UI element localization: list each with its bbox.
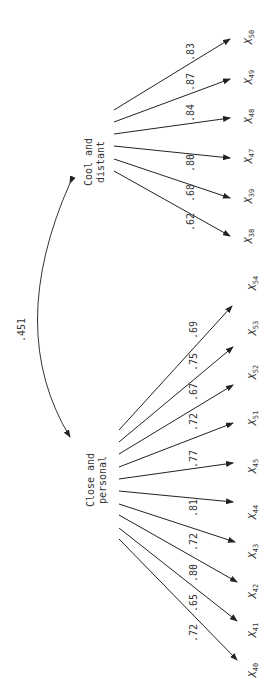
svg-text:.68: .68 bbox=[185, 184, 196, 202]
svg-text:X43: X43 bbox=[247, 544, 260, 559]
svg-text:X38: X38 bbox=[243, 229, 256, 244]
svg-text:.72: .72 bbox=[188, 624, 199, 642]
svg-text:.62: .62 bbox=[185, 213, 196, 231]
close-paths bbox=[119, 306, 237, 660]
svg-text:X50: X50 bbox=[243, 30, 256, 45]
svg-text:.69: .69 bbox=[188, 321, 199, 339]
cool-variables: X38 X39 X47 X48 X49 X50 bbox=[243, 30, 256, 244]
svg-text:.72: .72 bbox=[188, 533, 199, 551]
svg-text:.65: .65 bbox=[188, 594, 199, 612]
svg-text:.77: .77 bbox=[188, 450, 199, 468]
svg-text:X52: X52 bbox=[247, 365, 260, 380]
factor-cool-and-distant: Cool and distant bbox=[83, 138, 106, 186]
svg-text:X42: X42 bbox=[247, 584, 260, 599]
cool-loadings: .62 .68 .80 .84 .87 .83 bbox=[185, 43, 196, 231]
svg-text:X53: X53 bbox=[247, 321, 260, 336]
factor-close-and-personal: Close and personal bbox=[85, 453, 108, 507]
close-variables: X40 X41 X42 X43 X44 X45 X51 X52 X53 X54 bbox=[247, 276, 260, 678]
svg-text:X49: X49 bbox=[243, 70, 256, 85]
close-loadings: .72 .65 .80 .72 .81 .77 .72 .67 .75 .69 bbox=[188, 321, 199, 642]
svg-text:X51: X51 bbox=[247, 411, 260, 426]
svg-text:.81: .81 bbox=[188, 499, 199, 517]
svg-text:X41: X41 bbox=[247, 623, 260, 638]
svg-text:.72: .72 bbox=[188, 413, 199, 431]
factor-label-line2: personal bbox=[97, 456, 108, 504]
factor-diagram: .451 Cool and distant .62 .68 .80 .84 .8… bbox=[0, 0, 270, 683]
svg-text:X44: X44 bbox=[247, 505, 260, 520]
svg-text:.80: .80 bbox=[185, 154, 196, 172]
svg-text:.87: .87 bbox=[185, 73, 196, 91]
svg-text:.75: .75 bbox=[188, 353, 199, 371]
factor-label-line2: distant bbox=[95, 141, 106, 183]
svg-text:X39: X39 bbox=[243, 189, 256, 204]
svg-text:X40: X40 bbox=[247, 663, 260, 678]
correlation-label: .451 bbox=[16, 318, 27, 342]
svg-text:.83: .83 bbox=[185, 43, 196, 61]
svg-text:.80: .80 bbox=[188, 564, 199, 582]
correlation-arc bbox=[38, 183, 71, 437]
svg-text:X45: X45 bbox=[247, 459, 260, 474]
cool-paths bbox=[114, 39, 230, 236]
factor-label-line1: Close and bbox=[85, 453, 96, 507]
svg-text:X47: X47 bbox=[243, 149, 256, 164]
svg-text:X54: X54 bbox=[247, 276, 260, 291]
svg-text:.84: .84 bbox=[185, 104, 196, 122]
factor-label-line1: Cool and bbox=[83, 138, 94, 186]
svg-text:.67: .67 bbox=[188, 383, 199, 401]
svg-text:X48: X48 bbox=[243, 109, 256, 124]
